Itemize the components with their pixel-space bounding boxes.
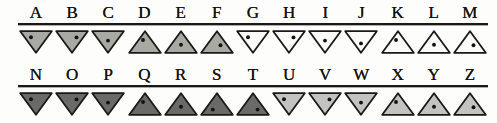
triangle-dot xyxy=(141,100,145,104)
triangle-glyph-l xyxy=(417,30,451,54)
triangle-dot xyxy=(394,38,398,42)
triangle-dot xyxy=(218,43,222,47)
triangle-dot xyxy=(211,108,215,112)
triangle-body xyxy=(382,31,414,53)
triangle-glyph-u xyxy=(272,92,306,116)
cipher-symbol-d xyxy=(126,28,162,56)
triangle-dot xyxy=(328,97,332,101)
cipher-symbol-b xyxy=(54,28,90,56)
cipher-symbol-w xyxy=(343,90,379,118)
triangle-dot xyxy=(29,35,33,39)
cipher-symbol-h xyxy=(271,28,307,56)
cipher-key-chart: ABCDEFGHIJKLM NOPQRSTUVWXYZ xyxy=(0,0,497,123)
cipher-symbol-q xyxy=(126,90,162,118)
triangle-dot xyxy=(472,43,476,47)
cipher-letter-p: P xyxy=(90,65,126,84)
triangle-glyph-b xyxy=(55,30,89,54)
cipher-row-2: NOPQRSTUVWXYZ xyxy=(0,58,497,123)
triangle-dot xyxy=(472,105,476,109)
triangle-dot xyxy=(360,101,364,105)
triangle-dot xyxy=(282,97,286,101)
cipher-letter-h: H xyxy=(271,3,307,22)
cipher-letter-r: R xyxy=(163,65,199,84)
triangle-glyph-n xyxy=(19,92,53,116)
cipher-symbol-p xyxy=(90,90,126,118)
triangle-body xyxy=(418,31,450,53)
cipher-symbol-j xyxy=(343,28,379,56)
triangle-dot xyxy=(106,39,110,43)
triangle-glyph-o xyxy=(55,92,89,116)
cipher-symbol-r xyxy=(163,90,199,118)
triangle-body xyxy=(201,31,233,53)
triangle-glyph-r xyxy=(164,92,198,116)
cipher-letter-v: V xyxy=(307,65,343,84)
cipher-symbol-x xyxy=(380,90,416,118)
triangle-dot xyxy=(29,97,33,101)
triangle-glyph-e xyxy=(164,30,198,54)
triangle-glyph-i xyxy=(308,30,342,54)
triangle-glyph-q xyxy=(128,92,162,116)
triangle-body xyxy=(56,93,88,115)
cipher-letter-y: Y xyxy=(416,65,452,84)
cipher-letter-a: A xyxy=(18,3,54,22)
triangle-glyph-p xyxy=(91,92,125,116)
cipher-letter-x: X xyxy=(380,65,416,84)
triangle-dot xyxy=(75,35,79,39)
triangle-dot xyxy=(75,97,79,101)
triangle-dot xyxy=(360,41,364,45)
cipher-letter-f: F xyxy=(199,3,235,22)
cipher-letter-d: D xyxy=(126,3,162,22)
triangle-body xyxy=(382,93,414,115)
triangle-body xyxy=(237,93,269,115)
triangle-body xyxy=(273,31,305,53)
triangle-body xyxy=(201,93,233,115)
cipher-symbol-t xyxy=(235,90,271,118)
triangle-dot xyxy=(292,35,296,39)
cipher-letter-i: I xyxy=(307,3,343,22)
horizontal-rule-row-1 xyxy=(18,23,488,26)
triangle-dot xyxy=(246,35,250,39)
triangle-body xyxy=(129,93,161,115)
cipher-letter-e: E xyxy=(163,3,199,22)
triangle-glyph-y xyxy=(417,92,451,116)
triangle-dot xyxy=(106,101,110,105)
rule-thin-line xyxy=(18,87,488,88)
letter-band-row-2: NOPQRSTUVWXYZ xyxy=(18,62,488,84)
triangle-body xyxy=(310,93,342,115)
triangle-dot xyxy=(179,43,183,47)
triangle-glyph-w xyxy=(344,92,378,116)
triangle-body xyxy=(237,31,269,53)
triangle-dot xyxy=(432,105,436,109)
triangle-glyph-m xyxy=(453,30,487,54)
cipher-symbol-e xyxy=(163,28,199,56)
triangle-body xyxy=(454,93,486,115)
letter-band-row-1: ABCDEFGHIJKLM xyxy=(18,0,488,22)
cipher-letter-q: Q xyxy=(126,65,162,84)
cipher-symbol-n xyxy=(18,90,54,118)
triangle-body xyxy=(418,93,450,115)
cipher-row-1: ABCDEFGHIJKLM xyxy=(0,0,497,58)
cipher-letter-t: T xyxy=(235,65,271,84)
glyph-band-row-1 xyxy=(18,28,488,56)
cipher-symbol-i xyxy=(307,28,343,56)
cipher-letter-k: K xyxy=(380,3,416,22)
triangle-dot xyxy=(323,39,327,43)
rule-thin-line xyxy=(18,25,488,26)
triangle-glyph-v xyxy=(308,92,342,116)
cipher-symbol-m xyxy=(452,28,488,56)
triangle-glyph-f xyxy=(200,30,234,54)
triangle-glyph-t xyxy=(236,92,270,116)
cipher-symbol-z xyxy=(452,90,488,118)
cipher-symbol-g xyxy=(235,28,271,56)
triangle-body xyxy=(454,31,486,53)
glyph-band-row-2 xyxy=(18,90,488,118)
triangle-body xyxy=(129,31,161,53)
cipher-letter-n: N xyxy=(18,65,54,84)
triangle-glyph-k xyxy=(381,30,415,54)
triangle-glyph-c xyxy=(91,30,125,54)
triangle-dot xyxy=(179,105,183,109)
triangle-glyph-h xyxy=(272,30,306,54)
cipher-letter-m: M xyxy=(452,3,488,22)
cipher-symbol-u xyxy=(271,90,307,118)
cipher-letter-b: B xyxy=(54,3,90,22)
